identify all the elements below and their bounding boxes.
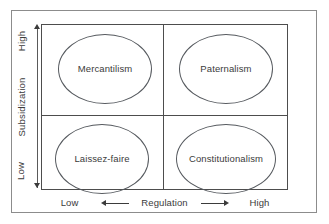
x-axis-title: Regulation (132, 196, 198, 210)
quadrant-top-right: Paternalism (179, 34, 273, 104)
y-axis-title: Subsidization (16, 63, 28, 151)
arrow-head (101, 200, 106, 206)
ellipse-shape: Paternalism (179, 34, 273, 104)
arrow-right-icon (198, 197, 232, 209)
arrow-left-icon (98, 197, 132, 209)
arrow-down-icon (34, 183, 40, 188)
ellipse-shape: Mercantilism (58, 34, 152, 104)
x-axis-high-label: High (232, 196, 288, 210)
y-axis-high-label: High (16, 18, 28, 64)
matrix-horizontal-divider (41, 115, 288, 116)
arrow-head (224, 200, 229, 206)
arrow-shaft (201, 203, 225, 204)
y-axis-low-label: Low (15, 148, 27, 194)
quadrant-label-constitutionalism: Constitutionalism (189, 154, 263, 164)
ellipse-shape: Constitutionalism (176, 124, 276, 194)
quadrant-label-mercantilism: Mercantilism (78, 64, 133, 74)
quadrant-label-laissez-faire: Laissez-faire (74, 154, 129, 164)
x-axis: Low Regulation High (41, 196, 288, 210)
ellipse-shape: Laissez-faire (55, 124, 149, 194)
quadrant-bottom-left: Laissez-faire (55, 124, 149, 194)
quadrant-top-left: Mercantilism (58, 34, 152, 104)
quadrant-bottom-right: Constitutionalism (176, 124, 276, 194)
x-axis-low-label: Low (42, 196, 98, 210)
arrow-up-icon (34, 24, 40, 29)
matrix-vertical-divider (163, 24, 164, 190)
quadrant-label-paternalism: Paternalism (200, 64, 251, 74)
vertical-axis-line (37, 26, 38, 188)
quadrant-matrix-figure: High Subsidization Low Mercantilism Pate… (0, 0, 329, 224)
arrow-shaft (105, 203, 129, 204)
